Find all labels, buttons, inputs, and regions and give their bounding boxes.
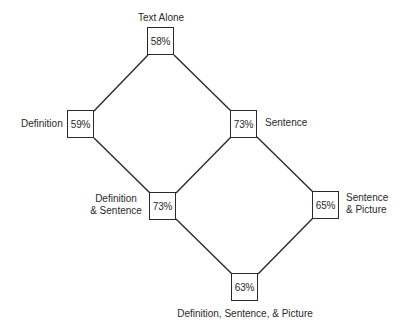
- node-label-def-sentence: Definition & Sentence: [89, 193, 143, 217]
- node-value: 58%: [151, 36, 170, 47]
- node-def-sentence-picture: 63%: [231, 273, 258, 301]
- label-line-2: & Picture: [346, 204, 388, 216]
- node-value: 73%: [153, 201, 172, 212]
- label-line-1: Definition: [89, 193, 143, 205]
- node-value: 63%: [235, 282, 254, 293]
- node-label-sentence-picture: Sentence & Picture: [346, 192, 388, 216]
- node-label-def-sentence-picture: Definition, Sentence, & Picture: [170, 308, 320, 320]
- node-label-definition: Definition: [21, 118, 63, 130]
- node-label-sentence: Sentence: [265, 117, 307, 129]
- node-value: 65%: [316, 200, 335, 211]
- edges: [0, 0, 404, 325]
- lattice-diagram: Text Alone 58% Definition 59% 73% Senten…: [0, 0, 404, 325]
- node-sentence-picture: 65%: [312, 191, 339, 219]
- node-value: 59%: [71, 119, 90, 130]
- edge-textalone-definition: [94, 55, 148, 111]
- node-sentence: 73%: [230, 110, 257, 138]
- node-label-text-alone: Text Alone: [134, 12, 188, 24]
- label-line-2: & Sentence: [89, 205, 143, 217]
- edge-defsentence-defsentencepicture: [176, 219, 232, 274]
- node-text-alone: 58%: [147, 27, 174, 55]
- node-value: 73%: [234, 119, 253, 130]
- edge-sentencepicture-defsentencepicture: [258, 218, 313, 274]
- edge-sentence-defsentence: [176, 137, 231, 193]
- node-definition: 59%: [67, 110, 94, 138]
- label-line-1: Sentence: [346, 192, 388, 204]
- node-def-sentence: 73%: [149, 192, 176, 220]
- edge-definition-defsentence: [94, 138, 150, 193]
- edge-sentence-sentencepicture: [257, 137, 313, 192]
- edge-textalone-sentence: [174, 55, 231, 111]
